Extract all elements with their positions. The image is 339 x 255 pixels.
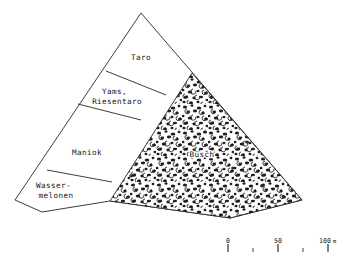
bush-label: Busch	[190, 150, 215, 159]
field-label-maniok: Maniok	[72, 148, 102, 157]
field-label-taro: Taro	[131, 53, 151, 62]
map-canvas: Taro Yams, Riesentaro Maniok Wasser- mel…	[0, 0, 339, 255]
field-label-wassermelonen: Wasser- melonen	[36, 181, 76, 200]
scale-label-100: 100	[319, 237, 331, 245]
schematic-map-figure: Taro Yams, Riesentaro Maniok Wasser- mel…	[0, 0, 339, 255]
scale-unit-label: m	[333, 238, 336, 244]
scale-label-0: 0	[226, 237, 230, 245]
scale-label-50: 50	[274, 237, 282, 245]
scale-bar: 0 50 100 m	[226, 237, 336, 252]
